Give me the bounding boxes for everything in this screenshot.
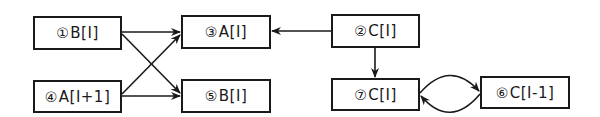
node-number: ① (56, 25, 69, 41)
dependence-graph: ① B[I] ③ A[I] ② C[I] ④ A[I+1] ⑤ B[I] ⑦ C… (0, 0, 600, 117)
node-7-c-i: ⑦ C[I] (331, 78, 420, 111)
node-number: ③ (205, 24, 218, 40)
node-1-b-i: ① B[I] (33, 16, 122, 50)
node-label: C[I] (368, 22, 397, 40)
node-5-b-i: ⑤ B[I] (181, 79, 271, 113)
node-6-c-i-minus-1: ⑥ C[I-1] (480, 76, 570, 109)
node-number: ② (354, 23, 367, 39)
node-4-a-i-plus-1: ④ A[I+1] (33, 80, 122, 113)
node-2-c-i: ② C[I] (331, 14, 420, 48)
node-label: B[I] (219, 87, 247, 105)
edge-n6-n7 (421, 94, 480, 112)
node-number: ⑥ (496, 85, 509, 101)
node-label: A[I] (219, 23, 247, 41)
node-label: B[I] (70, 24, 98, 42)
node-label: A[I+1] (59, 88, 111, 106)
node-label: C[I] (368, 86, 397, 104)
node-number: ⑦ (354, 87, 367, 103)
node-number: ⑤ (205, 88, 218, 104)
node-number: ④ (45, 89, 58, 105)
edge-n7-n6 (420, 75, 479, 93)
node-label: C[I-1] (510, 84, 555, 102)
node-3-a-i: ③ A[I] (181, 15, 271, 49)
